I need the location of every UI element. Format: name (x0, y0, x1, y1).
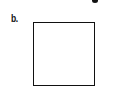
panel-label: b. (11, 13, 18, 24)
square-shape (33, 22, 95, 86)
top-mark (92, 0, 98, 3)
